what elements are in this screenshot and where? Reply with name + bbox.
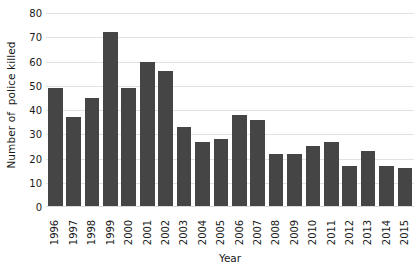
x-tick-slot: 2004 bbox=[193, 208, 211, 252]
y-tick-label: 60 bbox=[29, 56, 42, 67]
x-tick-label: 2008 bbox=[271, 220, 282, 245]
x-axis-title: Year bbox=[46, 252, 414, 264]
bar-slot bbox=[377, 13, 395, 207]
bar-slot bbox=[175, 13, 193, 207]
caption-remnant bbox=[46, 270, 414, 276]
x-tick-label: 1999 bbox=[105, 220, 116, 245]
y-tick-label: 80 bbox=[29, 8, 42, 19]
bar bbox=[324, 142, 339, 207]
bar-slot bbox=[396, 13, 414, 207]
x-tick-slot: 2011 bbox=[322, 208, 340, 252]
y-tick-label: 40 bbox=[29, 105, 42, 116]
x-tick-slot: 2003 bbox=[175, 208, 193, 252]
x-tick-label: 2015 bbox=[399, 220, 410, 245]
bars-layer bbox=[46, 13, 414, 207]
bar-slot bbox=[359, 13, 377, 207]
x-tick-slot: 1998 bbox=[83, 208, 101, 252]
x-tick-label: 2007 bbox=[252, 220, 263, 245]
x-tick-slot: 2012 bbox=[341, 208, 359, 252]
bar-slot bbox=[83, 13, 101, 207]
y-tick-label: 70 bbox=[29, 32, 42, 43]
bar bbox=[306, 146, 321, 207]
bar bbox=[66, 117, 81, 207]
x-axis-line bbox=[46, 206, 414, 207]
bar-chart: Number of police killed 0102030405060708… bbox=[0, 0, 418, 276]
x-tick-label: 1996 bbox=[50, 220, 61, 245]
x-tick-label: 2010 bbox=[307, 220, 318, 245]
x-tick-label: 2011 bbox=[326, 220, 337, 245]
bar-slot bbox=[64, 13, 82, 207]
x-axis-tick-labels: 1996199719981999200020012002200320042005… bbox=[46, 208, 414, 252]
bar-slot bbox=[267, 13, 285, 207]
bar bbox=[121, 88, 136, 207]
x-tick-label: 2012 bbox=[344, 220, 355, 245]
x-tick-label: 1997 bbox=[68, 220, 79, 245]
x-tick-slot: 2009 bbox=[285, 208, 303, 252]
bar-slot bbox=[101, 13, 119, 207]
x-tick-label: 2013 bbox=[363, 220, 374, 245]
y-tick-label: 30 bbox=[29, 129, 42, 140]
bar bbox=[177, 127, 192, 207]
y-axis-tick-labels: 01020304050607080 bbox=[22, 0, 45, 212]
bar bbox=[140, 62, 155, 208]
bar-slot bbox=[230, 13, 248, 207]
x-tick-slot: 2006 bbox=[230, 208, 248, 252]
bar-slot bbox=[193, 13, 211, 207]
x-tick-slot: 2010 bbox=[304, 208, 322, 252]
y-axis-title-text: Number of police killed bbox=[5, 41, 17, 168]
bar-slot bbox=[138, 13, 156, 207]
x-tick-slot: 2013 bbox=[359, 208, 377, 252]
bar bbox=[158, 71, 173, 207]
x-tick-label: 1998 bbox=[87, 220, 98, 245]
x-tick-slot: 2005 bbox=[212, 208, 230, 252]
x-tick-slot: 2014 bbox=[377, 208, 395, 252]
bar-slot bbox=[322, 13, 340, 207]
x-tick-label: 2005 bbox=[215, 220, 226, 245]
x-tick-slot: 1999 bbox=[101, 208, 119, 252]
y-tick-label: 10 bbox=[29, 177, 42, 188]
bar bbox=[195, 142, 210, 207]
x-tick-label: 2009 bbox=[289, 220, 300, 245]
x-tick-slot: 2015 bbox=[396, 208, 414, 252]
bar bbox=[214, 139, 229, 207]
bar bbox=[85, 98, 100, 207]
y-tick-label: 20 bbox=[29, 153, 42, 164]
y-axis-title: Number of police killed bbox=[0, 0, 22, 210]
x-tick-slot: 2002 bbox=[156, 208, 174, 252]
bar bbox=[269, 154, 284, 207]
x-tick-label: 2001 bbox=[142, 220, 153, 245]
bar-slot bbox=[212, 13, 230, 207]
bar bbox=[287, 154, 302, 207]
bar bbox=[48, 88, 63, 207]
x-tick-slot: 2007 bbox=[248, 208, 266, 252]
bar-slot bbox=[248, 13, 266, 207]
bar bbox=[379, 166, 394, 207]
x-tick-label: 2014 bbox=[381, 220, 392, 245]
bar bbox=[232, 115, 247, 207]
x-tick-label: 2003 bbox=[179, 220, 190, 245]
y-tick-label: 50 bbox=[29, 80, 42, 91]
x-tick-slot: 2000 bbox=[120, 208, 138, 252]
bar bbox=[250, 120, 265, 207]
bar bbox=[361, 151, 376, 207]
bar-slot bbox=[156, 13, 174, 207]
bar-slot bbox=[304, 13, 322, 207]
bar-slot bbox=[341, 13, 359, 207]
bar bbox=[342, 166, 357, 207]
bar bbox=[398, 168, 413, 207]
bar bbox=[103, 32, 118, 207]
bar-slot bbox=[46, 13, 64, 207]
x-tick-slot: 2008 bbox=[267, 208, 285, 252]
x-tick-slot: 1996 bbox=[46, 208, 64, 252]
x-tick-label: 2006 bbox=[234, 220, 245, 245]
x-tick-slot: 2001 bbox=[138, 208, 156, 252]
bar-slot bbox=[120, 13, 138, 207]
x-tick-label: 2004 bbox=[197, 220, 208, 245]
plot-area bbox=[46, 13, 414, 207]
x-tick-label: 2000 bbox=[123, 220, 134, 245]
x-tick-slot: 1997 bbox=[64, 208, 82, 252]
y-tick-label: 0 bbox=[36, 202, 42, 213]
bar-slot bbox=[285, 13, 303, 207]
x-tick-label: 2002 bbox=[160, 220, 171, 245]
